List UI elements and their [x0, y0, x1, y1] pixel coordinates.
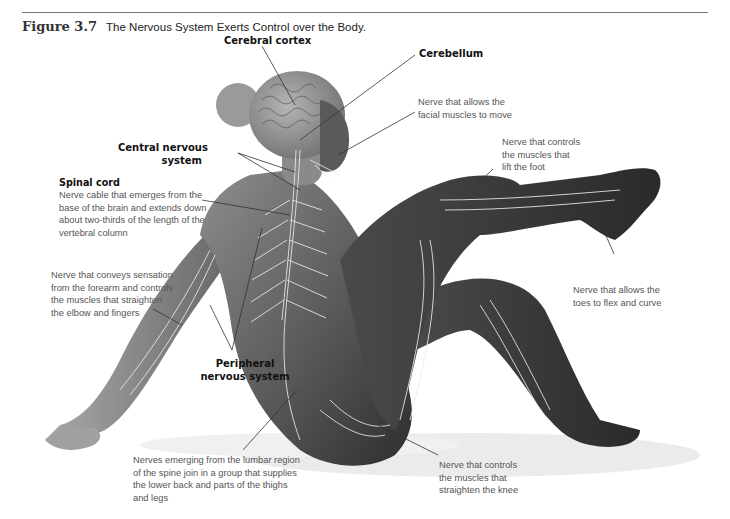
arm: [45, 235, 225, 450]
label-knee-nerve: Nerve that controls the muscles that str…: [439, 459, 518, 497]
label-forearm-nerve: Nerve that conveys sensation from the fo…: [51, 269, 173, 319]
label-lumbar-nerves: Nerves emerging from the lumbar region o…: [133, 454, 300, 504]
label-cerebellum: Cerebellum: [419, 47, 483, 60]
label-central-nervous-system: Central nervous system: [118, 141, 202, 167]
label-facial-nerve: Nerve that allows the facial muscles to …: [418, 96, 512, 121]
label-peripheral-nervous-system: Peripheral nervous system: [190, 357, 300, 383]
label-spinal-cord: Spinal cord Nerve cable that emerges fro…: [59, 176, 206, 239]
label-cerebral-cortex: Cerebral cortex: [224, 34, 311, 47]
nervous-system-illustration: [0, 0, 730, 519]
label-toes-nerve: Nerve that allows the toes to flex and c…: [573, 284, 661, 309]
label-foot-lift-nerve: Nerve that controls the muscles that lif…: [502, 136, 580, 174]
